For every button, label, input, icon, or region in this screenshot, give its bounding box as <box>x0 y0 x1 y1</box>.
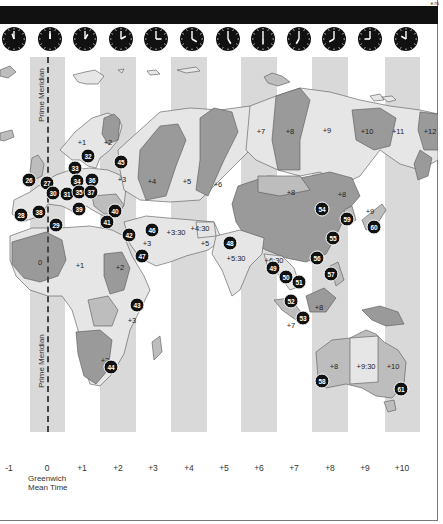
zone-label: +3 <box>143 239 152 248</box>
location-pin-53[interactable]: 53 <box>296 311 311 326</box>
location-pin-52[interactable]: 52 <box>284 294 299 309</box>
location-pin-42[interactable]: 42 <box>122 228 137 243</box>
location-pin-46[interactable]: 46 <box>145 223 160 238</box>
gmt-caption: Greenwich Mean Time <box>28 474 68 492</box>
location-pin-45[interactable]: 45 <box>114 155 129 170</box>
prime-meridian-line <box>47 57 49 432</box>
clock-icon <box>216 27 240 51</box>
clock-icon <box>251 27 275 51</box>
axis-label: +5 <box>219 463 229 473</box>
zone-label: +9:30 <box>357 362 376 371</box>
axis-label: +1 <box>77 463 87 473</box>
location-pin-44[interactable]: 44 <box>104 360 119 375</box>
zone-label: +8 <box>286 127 295 136</box>
zone-label: +1 <box>76 261 85 270</box>
zone-label: +9 <box>366 207 375 216</box>
clock-icon <box>358 27 382 51</box>
axis-label: +9 <box>360 463 370 473</box>
zone-label: +1 <box>78 138 87 147</box>
clock-icon <box>322 27 346 51</box>
axis-label: +2 <box>113 463 123 473</box>
zone-label: +11 <box>392 127 404 136</box>
axis-label: +8 <box>325 463 335 473</box>
axis-label: +6 <box>254 463 264 473</box>
zone-label: +5:30 <box>227 254 246 263</box>
clock-icon <box>73 27 97 51</box>
zone-label: +3:30 <box>167 228 186 237</box>
clock-icon <box>394 27 418 51</box>
axis-label: +4 <box>184 463 194 473</box>
axis-label: +7 <box>289 463 299 473</box>
location-pin-48[interactable]: 48 <box>223 236 238 251</box>
location-pin-57[interactable]: 57 <box>324 267 339 282</box>
clock-row <box>0 26 438 56</box>
zone-label: +8 <box>338 190 347 199</box>
location-pin-55[interactable]: 55 <box>326 231 341 246</box>
zone-label: +9 <box>323 126 332 135</box>
location-pin-54[interactable]: 54 <box>315 202 330 217</box>
clock-icon <box>109 27 133 51</box>
location-pin-47[interactable]: 47 <box>135 249 150 264</box>
zone-label: +12 <box>424 127 437 136</box>
zone-label: +5 <box>201 239 210 248</box>
location-pin-51[interactable]: 51 <box>292 275 307 290</box>
zone-label: +10 <box>387 362 400 371</box>
location-pin-61[interactable]: 61 <box>394 382 409 397</box>
location-pin-30[interactable]: 30 <box>46 186 61 201</box>
zone-label: +5 <box>183 177 192 186</box>
location-pin-43[interactable]: 43 <box>130 298 145 313</box>
prime-meridian-label-top: Prime Meridian <box>37 68 46 122</box>
location-pin-26[interactable]: 26 <box>22 173 37 188</box>
location-pin-56[interactable]: 56 <box>310 251 325 266</box>
zone-label: +2 <box>116 263 125 272</box>
location-pin-58[interactable]: 58 <box>315 374 330 389</box>
location-pin-37[interactable]: 37 <box>84 185 99 200</box>
location-pin-41[interactable]: 41 <box>100 215 115 230</box>
clock-icon <box>144 27 168 51</box>
greenland-fragment <box>0 66 16 78</box>
world-map <box>0 57 438 432</box>
zone-label: +8 <box>315 303 324 312</box>
location-pin-28[interactable]: 28 <box>14 208 29 223</box>
clock-icon <box>38 27 62 51</box>
zone-label: +10 <box>361 127 374 136</box>
location-pin-38[interactable]: 38 <box>32 205 47 220</box>
clock-icon <box>2 27 26 51</box>
zone-label: +2 <box>104 138 113 147</box>
zone-label: +6 <box>214 180 223 189</box>
title-bar <box>0 6 438 24</box>
axis-label: 0 <box>45 463 50 473</box>
location-pin-60[interactable]: 60 <box>367 220 382 235</box>
gmt-line-2: Mean Time <box>28 483 68 492</box>
zone-label: +8 <box>330 362 339 371</box>
zone-label: 0 <box>38 258 42 267</box>
location-pin-29[interactable]: 29 <box>49 218 64 233</box>
axis-label: +3 <box>148 463 158 473</box>
zone-label: +4:30 <box>191 224 210 233</box>
zone-label: +4 <box>148 177 157 186</box>
zone-label: +3 <box>128 316 137 325</box>
prime-meridian-label-bottom: Prime Meridian <box>37 334 46 388</box>
location-pin-39[interactable]: 39 <box>72 202 87 217</box>
zone-label: +3 <box>118 175 127 184</box>
axis-label: -1 <box>5 463 13 473</box>
location-pin-59[interactable]: 59 <box>340 212 355 227</box>
axis-label: +10 <box>395 463 409 473</box>
gmt-line-1: Greenwich <box>28 474 68 483</box>
location-pin-32[interactable]: 32 <box>81 149 96 164</box>
clock-icon <box>287 27 311 51</box>
zone-label: +7 <box>287 321 296 330</box>
clock-icon <box>180 27 204 51</box>
zone-label: +8 <box>287 188 296 197</box>
zone-label: +7 <box>257 127 266 136</box>
